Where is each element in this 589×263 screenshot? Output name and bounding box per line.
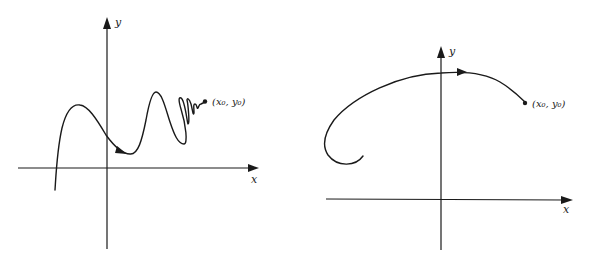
left-point-marker	[203, 99, 207, 103]
left-y-axis-label: y	[114, 16, 122, 29]
left-x-axis	[18, 164, 259, 172]
right-panel: x y (x₀, y₀)	[325, 45, 573, 250]
right-x-axis	[326, 196, 573, 204]
left-panel: x y (x₀, y₀)	[18, 16, 259, 249]
left-x-axis-arrow-icon	[248, 164, 259, 172]
right-point-label: (x₀, y₀)	[532, 98, 566, 109]
left-direction-arrow-icon	[115, 146, 127, 154]
right-curve	[325, 72, 525, 164]
figure: x y (x₀, y₀) x y	[0, 0, 589, 263]
right-x-axis-label: x	[563, 203, 570, 216]
left-x-axis-label: x	[251, 173, 258, 186]
right-direction-arrow-icon	[457, 68, 467, 76]
left-point-label: (x₀, y₀)	[212, 96, 246, 107]
right-y-axis-arrow-icon	[437, 46, 445, 58]
right-y-axis-label: y	[448, 45, 456, 58]
right-y-axis	[437, 46, 445, 250]
right-point-marker	[523, 101, 527, 105]
left-curve	[55, 92, 205, 190]
left-y-axis-arrow-icon	[103, 17, 111, 29]
